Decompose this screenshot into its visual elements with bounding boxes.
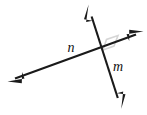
- geometry-figure: n m: [0, 0, 147, 115]
- label-line-m: m: [113, 59, 123, 74]
- label-line-n: n: [68, 40, 75, 55]
- geometry-canvas: n m: [0, 0, 147, 115]
